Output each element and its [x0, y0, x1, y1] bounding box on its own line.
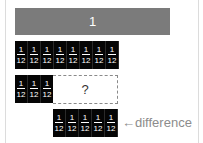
fraction-bar [55, 122, 63, 123]
tile-denominator: 12 [17, 90, 26, 99]
tile-numerator: 1 [70, 113, 74, 122]
fraction-tile: 112 [67, 41, 80, 69]
fraction-tile: 112 [28, 75, 41, 103]
fraction-tile: 112 [106, 41, 119, 69]
fraction-bar [17, 88, 25, 89]
tile-denominator: 12 [68, 124, 77, 133]
fraction-tile: 112 [105, 109, 118, 137]
fraction-bar [107, 122, 115, 123]
fraction-bar [56, 54, 64, 55]
fraction-bar [43, 88, 51, 89]
tile-denominator: 12 [108, 56, 117, 65]
whole-bar: 1 [15, 8, 170, 35]
tile-numerator: 1 [57, 113, 61, 122]
tile-numerator: 1 [96, 113, 100, 122]
fraction-tile: 112 [15, 41, 28, 69]
unknown-box: ? [53, 75, 118, 104]
fraction-bar [68, 122, 76, 123]
tile-numerator: 1 [110, 45, 114, 54]
fraction-tile: 112 [93, 41, 106, 69]
fraction-tile: 112 [79, 109, 92, 137]
tile-numerator: 1 [58, 45, 62, 54]
fraction-bar [95, 54, 103, 55]
tile-denominator: 12 [81, 124, 90, 133]
tile-denominator: 12 [56, 56, 65, 65]
fraction-tile: 112 [15, 75, 28, 103]
tile-numerator: 1 [19, 45, 23, 54]
tile-denominator: 12 [82, 56, 91, 65]
tile-numerator: 1 [45, 45, 49, 54]
unknown-label: ? [81, 82, 88, 97]
tile-numerator: 1 [83, 113, 87, 122]
whole-bar-label: 1 [89, 14, 96, 29]
fraction-tile: 112 [92, 109, 105, 137]
fraction-bar [30, 54, 38, 55]
fraction-tile: 112 [28, 41, 41, 69]
tile-denominator: 12 [94, 124, 103, 133]
fraction-bar [82, 54, 90, 55]
fraction-bar [43, 54, 51, 55]
fraction-tile: 112 [54, 41, 67, 69]
fraction-tile: 112 [53, 109, 66, 137]
fraction-tile: 112 [41, 41, 54, 69]
tile-numerator: 1 [71, 45, 75, 54]
tile-denominator: 12 [30, 56, 39, 65]
tile-denominator: 12 [43, 56, 52, 65]
three-twelfths-row: 112 112 112 [15, 75, 54, 103]
tile-denominator: 12 [17, 56, 26, 65]
tile-numerator: 1 [84, 45, 88, 54]
tile-denominator: 12 [95, 56, 104, 65]
tile-denominator: 12 [69, 56, 78, 65]
tile-numerator: 1 [45, 79, 49, 88]
tile-denominator: 12 [55, 124, 64, 133]
fraction-tile: 112 [66, 109, 79, 137]
tile-numerator: 1 [97, 45, 101, 54]
tile-denominator: 12 [107, 124, 116, 133]
eight-twelfths-row: 112 112 112 112 112 112 112 112 [15, 41, 119, 69]
tile-numerator: 1 [32, 45, 36, 54]
fraction-tile: 112 [80, 41, 93, 69]
fraction-bar [94, 122, 102, 123]
tile-denominator: 12 [30, 90, 39, 99]
tile-denominator: 12 [43, 90, 52, 99]
tile-numerator: 1 [19, 79, 23, 88]
difference-row: 112 112 112 112 112 [53, 109, 118, 137]
difference-label: ←difference [122, 115, 192, 130]
tile-numerator: 1 [109, 113, 113, 122]
fraction-bar [81, 122, 89, 123]
tile-numerator: 1 [32, 79, 36, 88]
fraction-bar [108, 54, 116, 55]
fraction-bar [69, 54, 77, 55]
fraction-bar [17, 54, 25, 55]
fraction-bar [30, 88, 38, 89]
